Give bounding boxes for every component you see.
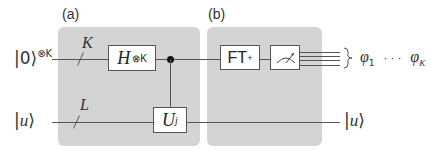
bus-label-k: K xyxy=(82,34,93,52)
output-phases: φ1 · · · φK xyxy=(360,47,425,68)
panel-a-label: (a) xyxy=(62,6,79,22)
input-ket-zero-superscript: ⊗K xyxy=(37,48,52,59)
controlled-unitary-gate: Uj xyxy=(153,107,187,133)
input-ket-u: |u⟩ xyxy=(14,110,35,131)
inverse-qft-gate: FT+ xyxy=(220,45,260,70)
output-line-4 xyxy=(300,65,340,66)
output-line-1 xyxy=(300,52,340,53)
input-ket-zero: |0⟩⊗K xyxy=(14,48,52,68)
measurement-gate xyxy=(270,45,300,70)
bus-label-l: L xyxy=(80,96,89,114)
hadamard-gate: H⊗K xyxy=(108,45,156,71)
output-ket-u: |u⟩ xyxy=(344,110,365,131)
bottom-wire-segment-2 xyxy=(187,122,340,123)
panel-b-label: (b) xyxy=(208,6,225,22)
top-wire-segment-3 xyxy=(260,59,270,60)
meter-icon xyxy=(271,46,301,71)
output-line-2 xyxy=(300,56,340,57)
output-line-3 xyxy=(300,60,340,61)
brace-icon xyxy=(343,47,355,69)
control-line xyxy=(170,59,171,107)
bottom-wire-segment-1 xyxy=(52,122,153,123)
top-wire-segment-2 xyxy=(156,59,220,60)
